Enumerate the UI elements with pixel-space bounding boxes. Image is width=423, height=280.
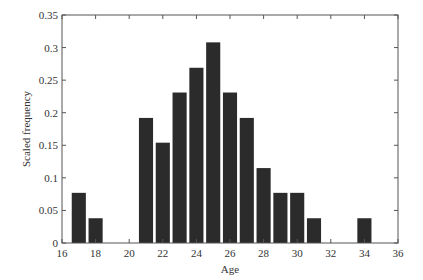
bar-age-22 <box>156 143 170 243</box>
y-tick-label: 0.05 <box>39 204 59 216</box>
bar-age-30 <box>290 193 304 243</box>
x-tick-label: 20 <box>124 247 136 259</box>
x-tick-label: 30 <box>292 247 304 259</box>
y-tick-label: 0.2 <box>44 107 58 119</box>
x-tick-label: 16 <box>57 247 69 259</box>
x-axis-label: Age <box>221 263 239 275</box>
bar-age-31 <box>307 218 321 243</box>
bar-age-29 <box>273 193 287 243</box>
x-tick-label: 24 <box>191 247 203 259</box>
x-tick-label: 18 <box>90 247 102 259</box>
y-tick-label: 0.25 <box>39 74 59 86</box>
y-tick-label: 0 <box>53 237 59 249</box>
y-tick-label: 0.1 <box>44 172 58 184</box>
bar-age-17 <box>72 193 86 243</box>
x-tick-label: 34 <box>359 247 371 259</box>
x-tick-label: 32 <box>325 247 336 259</box>
bar-age-25 <box>206 42 220 243</box>
bar-age-26 <box>223 93 237 243</box>
y-tick-label: 0.35 <box>39 9 59 21</box>
bars-group <box>72 42 372 243</box>
histogram-chart: 1618202224262830323436 00.050.10.150.20.… <box>0 0 423 280</box>
bar-age-27 <box>240 118 254 243</box>
y-tick-label: 0.3 <box>44 42 58 54</box>
y-axis-label: Scaled frequency <box>20 90 32 167</box>
bar-age-24 <box>189 68 203 243</box>
x-tick-label: 36 <box>393 247 405 259</box>
y-tick-label: 0.15 <box>39 139 59 151</box>
bar-age-28 <box>257 168 271 243</box>
x-tick-label: 26 <box>225 247 237 259</box>
x-tick-label: 28 <box>258 247 270 259</box>
x-tick-label: 22 <box>157 247 168 259</box>
bar-age-21 <box>139 118 153 243</box>
bar-age-23 <box>173 93 187 243</box>
